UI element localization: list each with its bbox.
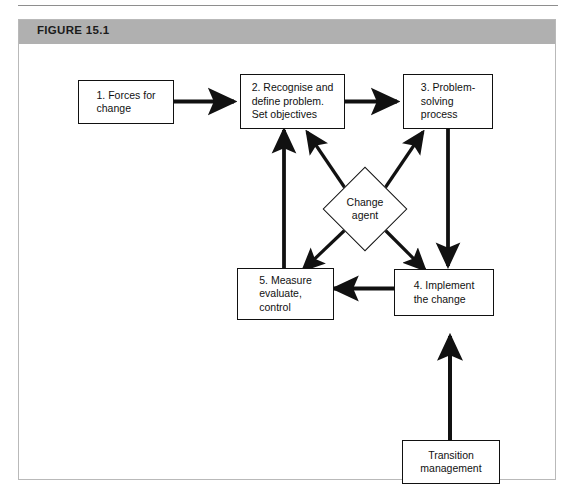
figure-frame: FIGURE 15.1 [18,19,556,480]
node-forces-for-change[interactable]: 1. Forces for change [78,80,174,124]
figure-label: FIGURE 15.1 [37,24,109,36]
figure-header-band: FIGURE 15.1 [19,20,555,44]
diagram-canvas: 1. Forces for change 2. Recognise and de… [19,44,557,480]
node-recognise-define-problem-label: 2. Recognise and define problem. Set obj… [248,81,338,122]
node-change-agent-label: Change agent [343,196,388,223]
clipped-body-text [20,493,540,501]
node-measure-evaluate-control-label: 5. Measure evaluate, control [255,274,316,315]
node-recognise-define-problem[interactable]: 2. Recognise and define problem. Set obj… [240,74,345,129]
node-transition-management-label: Transition management [416,449,485,476]
node-implement-the-change[interactable]: 4. Implement the change [394,269,494,316]
node-measure-evaluate-control[interactable]: 5. Measure evaluate, control [237,268,334,320]
node-implement-the-change-label: 4. Implement the change [410,279,479,306]
node-transition-management[interactable]: Transition management [402,440,500,484]
node-forces-for-change-label: 1. Forces for change [93,89,160,116]
node-problem-solving-process[interactable]: 3. Problem- solving process [403,74,493,129]
node-change-agent[interactable]: Change agent [335,179,395,239]
node-problem-solving-process-label: 3. Problem- solving process [417,81,479,122]
page-top-rule [18,5,558,6]
